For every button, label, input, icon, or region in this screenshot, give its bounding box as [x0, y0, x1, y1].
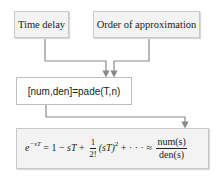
connector-pade	[46, 104, 185, 125]
order-of-approximation-box: Order of approximation	[93, 11, 200, 38]
time-delay-box: Time delay	[14, 11, 69, 38]
transfer-function-fraction: num(s)den(s)	[156, 137, 186, 160]
pade-function-label: [num,den]=pade(T,n)	[28, 86, 121, 97]
order-label: Order of approximation	[97, 19, 197, 30]
pade-function-box: [num,den]=pade(T,n)	[16, 77, 132, 105]
time-delay-label: Time delay	[18, 19, 65, 30]
formula-expression: e−sT = 1 − sT + 12!(sT)2 + · · · ≈ num(s…	[25, 137, 189, 160]
connector-order	[114, 37, 149, 74]
connector-time-delay	[45, 37, 106, 74]
formula-box: e−sT = 1 − sT + 12!(sT)2 + · · · ≈ num(s…	[16, 128, 209, 169]
